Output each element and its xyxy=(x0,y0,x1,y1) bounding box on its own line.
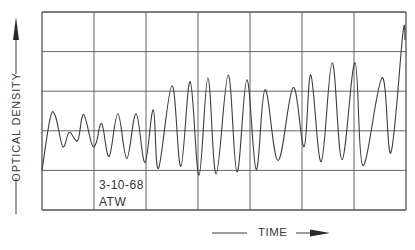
annotation-date: 3-10-68 xyxy=(99,177,144,194)
chart-canvas xyxy=(0,0,415,250)
chart-annotation: 3-10-68 ATW xyxy=(99,177,144,211)
y-axis-label-container: OPTICAL DENSITY xyxy=(4,0,26,250)
annotation-initials: ATW xyxy=(99,194,144,211)
x-axis-label: TIME xyxy=(258,226,287,238)
arrow-right-icon xyxy=(310,230,330,237)
y-axis-label: OPTICAL DENSITY xyxy=(10,72,22,181)
chart-grid xyxy=(42,12,406,210)
optical-density-trace xyxy=(42,25,405,175)
